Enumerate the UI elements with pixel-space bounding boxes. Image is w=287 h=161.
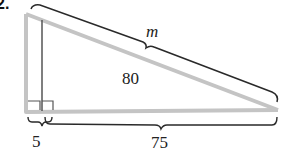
problem-number: 2.: [0, 0, 9, 12]
hypotenuse-brace: [31, 5, 277, 102]
right-angle-marks: [28, 101, 53, 110]
large-segment-label: 75: [151, 133, 168, 152]
triangle-diagram: 2. m 80 5 75: [0, 0, 287, 161]
figure-canvas: 2. m 80 5 75: [0, 0, 287, 161]
altitude-label: 80: [122, 69, 139, 88]
small-segment-brace: [28, 117, 52, 126]
hypotenuse-label: m: [146, 22, 158, 41]
large-segment-brace: [45, 117, 277, 129]
small-segment-label: 5: [32, 132, 41, 151]
